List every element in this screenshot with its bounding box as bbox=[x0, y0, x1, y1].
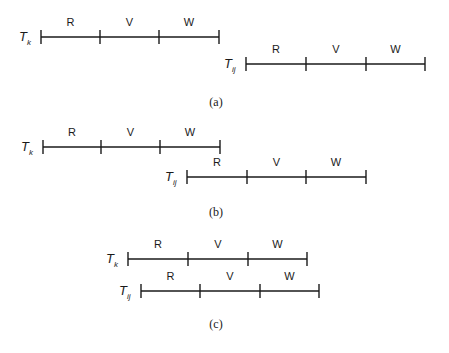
segment-label-V: V bbox=[273, 156, 281, 168]
segment-label-R: R bbox=[68, 126, 76, 138]
timeline-Tij: TijRVW bbox=[224, 43, 425, 74]
timeline-label: Tk bbox=[21, 139, 34, 157]
panel-caption: (a) bbox=[209, 95, 222, 109]
timeline-Tk: TkRVW bbox=[106, 238, 307, 269]
timeline-Tij: TijRVW bbox=[119, 270, 319, 301]
panel-a: TkRVWTijRVW(a) bbox=[19, 16, 425, 109]
segment-label-R: R bbox=[67, 16, 75, 28]
timeline-Tk: TkRVW bbox=[19, 16, 219, 47]
segment-label-W: W bbox=[185, 126, 196, 138]
panel-caption: (b) bbox=[209, 205, 223, 219]
timeline-label: Tij bbox=[165, 169, 177, 187]
segment-label-R: R bbox=[167, 270, 175, 282]
timeline-Tk: TkRVW bbox=[21, 126, 220, 157]
segment-label-V: V bbox=[126, 16, 134, 28]
timeline-label: Tij bbox=[224, 56, 236, 74]
segment-label-W: W bbox=[331, 156, 342, 168]
segment-label-V: V bbox=[226, 270, 234, 282]
panel-c: TkRVWTijRVW(c) bbox=[106, 238, 319, 331]
segment-label-V: V bbox=[332, 43, 340, 55]
segment-label-W: W bbox=[272, 238, 283, 250]
panel-b: TkRVWTijRVW(b) bbox=[21, 126, 366, 219]
segment-label-W: W bbox=[390, 43, 401, 55]
timeline-Tij: TijRVW bbox=[165, 156, 366, 187]
segment-label-W: W bbox=[284, 270, 295, 282]
segment-label-R: R bbox=[154, 238, 162, 250]
segment-label-R: R bbox=[272, 43, 280, 55]
segment-label-W: W bbox=[184, 16, 195, 28]
panel-caption: (c) bbox=[209, 317, 222, 331]
timeline-diagram: TkRVWTijRVW(a)TkRVWTijRVW(b)TkRVWTijRVW(… bbox=[0, 0, 449, 353]
timeline-label: Tk bbox=[106, 251, 119, 269]
timeline-label: Tij bbox=[119, 283, 131, 301]
segment-label-V: V bbox=[127, 126, 135, 138]
timeline-label: Tk bbox=[19, 29, 32, 47]
segment-label-R: R bbox=[213, 156, 221, 168]
segment-label-V: V bbox=[214, 238, 222, 250]
